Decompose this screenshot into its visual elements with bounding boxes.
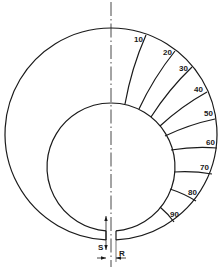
graduation-line-20 xyxy=(139,51,175,109)
graduation-label-90: 90 xyxy=(170,210,179,219)
graduation-line-30 xyxy=(151,67,192,117)
graduation-line-50 xyxy=(165,119,215,136)
graduation-label-50: 50 xyxy=(204,109,213,118)
graduation-label-80: 80 xyxy=(188,188,197,197)
graduation-label-60: 60 xyxy=(206,138,215,147)
ring-diagram: 102030405060708090 S R xyxy=(0,0,222,269)
graduation-lines: 102030405060708090 xyxy=(125,35,217,222)
graduation-label-10: 10 xyxy=(134,35,143,44)
graduation-line-60 xyxy=(171,147,217,150)
graduation-line-40 xyxy=(160,92,207,126)
graduation-line-10 xyxy=(125,35,146,104)
graduation-label-20: 20 xyxy=(163,48,172,57)
s-label: S xyxy=(98,243,104,252)
graduation-label-40: 40 xyxy=(194,85,203,94)
s-dimension: S xyxy=(98,216,108,252)
graduation-label-30: 30 xyxy=(179,64,188,73)
r-label: R xyxy=(119,249,125,258)
diagram-container: 102030405060708090 S R xyxy=(0,0,222,269)
graduation-label-70: 70 xyxy=(200,163,209,172)
